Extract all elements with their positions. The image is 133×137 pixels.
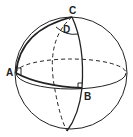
equator-back-dashed <box>16 59 126 73</box>
sphere-diagram: C D A B <box>0 0 133 137</box>
thick-arc-A-to-B <box>16 73 82 88</box>
label-B: B <box>84 91 91 102</box>
label-D: D <box>63 24 70 35</box>
label-C: C <box>69 5 76 16</box>
label-A: A <box>6 67 13 78</box>
